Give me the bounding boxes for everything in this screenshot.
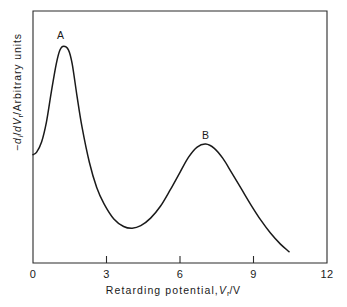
y-axis-slash-first: / <box>11 132 23 136</box>
chart-canvas <box>0 0 347 307</box>
y-axis-slash-second: / <box>11 111 23 115</box>
data-curve <box>33 46 289 251</box>
annotation-peak-a: A <box>57 29 65 41</box>
x-axis-ticks <box>107 256 254 263</box>
axes-group <box>33 11 327 263</box>
x-axis-symbol: V <box>219 284 227 296</box>
y-axis-units-text: Arbitrary units <box>11 33 23 111</box>
annotation-peak-b: B <box>202 129 210 141</box>
y-axis-d-first: d <box>11 137 23 144</box>
y-axis-symbol: V <box>11 117 23 125</box>
figure-container: 036912 A B Retarding potential,Vr/V −di/… <box>0 0 347 307</box>
x-tick-label: 9 <box>234 268 274 280</box>
x-tick-label: 0 <box>13 268 53 280</box>
y-axis-title: −di/dVr/Arbitrary units <box>11 0 25 202</box>
x-axis-title-text: Retarding potential, <box>106 284 219 296</box>
x-tick-label: 6 <box>160 268 200 280</box>
x-tick-label: 3 <box>87 268 127 280</box>
x-tick-label: 12 <box>307 268 347 280</box>
series-group <box>33 46 289 251</box>
y-axis-d-second: d <box>11 125 23 132</box>
x-axis-unit: V <box>233 284 241 296</box>
y-axis-minus: − <box>11 144 23 151</box>
x-axis-title: Retarding potential,Vr/V <box>0 284 347 298</box>
y-axis-subscript-r: r <box>16 115 25 118</box>
axis-frame <box>33 11 327 263</box>
